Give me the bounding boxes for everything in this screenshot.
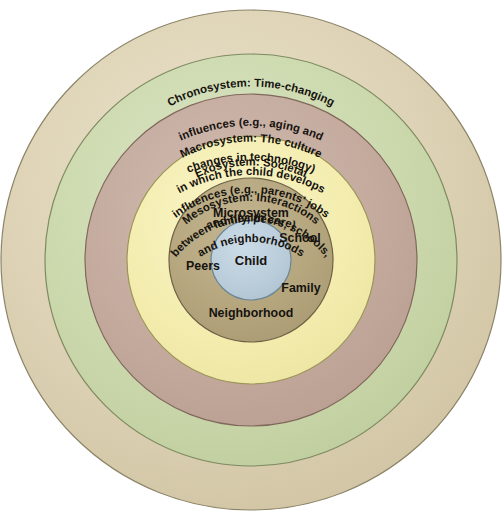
ecological-systems-diagram: Chronosystem: Time-changing influences (… <box>0 0 502 521</box>
ecological-systems-svg: Chronosystem: Time-changing influences (… <box>0 0 502 521</box>
microsystem-ring-title: Microsystem <box>213 206 289 220</box>
microsystem-label-school: School <box>279 231 320 245</box>
child-core-label: Child <box>235 253 268 268</box>
microsystem-label-peers: Peers <box>186 259 220 273</box>
microsystem-label-neighborhood: Neighborhood <box>209 306 294 320</box>
microsystem-label-family: Family <box>281 281 320 295</box>
